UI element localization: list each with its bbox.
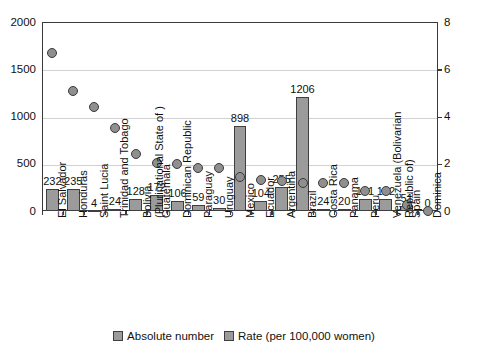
x-tickmark: [146, 211, 147, 215]
x-tickmark: [84, 211, 85, 215]
tickmark-right-4: [438, 117, 442, 118]
rate-dot: [298, 178, 308, 188]
bar-value-label: 1206: [281, 84, 325, 95]
legend-label-absolute-number: Absolute number: [127, 330, 214, 342]
legend-item-rate: Rate (per 100,000 women): [224, 330, 375, 342]
y-tick-left-1000: 1000: [0, 111, 36, 123]
x-axis-label: Dominica: [432, 172, 444, 218]
rate-dot: [381, 186, 391, 196]
y-tick-right-8: 8: [444, 17, 474, 29]
x-axis-label: Dominican Republic: [182, 120, 194, 218]
y-tick-left-500: 500: [0, 158, 36, 170]
x-axis-label: Guatemala: [161, 164, 173, 218]
x-tickmark: [271, 211, 272, 215]
x-axis-label: Costa Rica: [328, 164, 340, 218]
x-tickmark: [209, 211, 210, 215]
legend-item-absolute-number: Absolute number: [113, 330, 214, 342]
x-tickmark: [355, 211, 356, 215]
gridline-1500: [43, 70, 437, 71]
y-tick-left-0: 0: [0, 206, 36, 218]
x-tickmark: [313, 211, 314, 215]
x-tickmark: [125, 211, 126, 215]
tickmark-right-2: [438, 164, 442, 165]
x-tickmark: [63, 211, 64, 215]
legend-swatch-icon: [113, 331, 123, 341]
x-tickmark: [334, 211, 335, 215]
x-tickmark: [167, 211, 168, 215]
y-tick-right-4: 4: [444, 111, 474, 123]
x-tickmark: [188, 211, 189, 215]
y-tick-right-2: 2: [444, 158, 474, 170]
legend-swatch-icon: [224, 331, 234, 341]
x-axis-label: Trinidad and Tobago: [119, 118, 131, 218]
x-axis-label: El Salvador: [57, 162, 69, 218]
bar-value-label: 898: [218, 113, 262, 124]
x-axis-label: Saint Lucia: [99, 164, 111, 218]
y-tick-left-1500: 1500: [0, 64, 36, 76]
x-tickmark: [42, 211, 43, 215]
y-tick-left-2000: 2000: [0, 17, 36, 29]
x-tickmark: [375, 211, 376, 215]
femicide-chart: 2000 1500 1000 500 0 8 6 4 2 0 232235424…: [0, 0, 488, 354]
x-tickmark: [230, 211, 231, 215]
y-tick-right-6: 6: [444, 64, 474, 76]
x-tickmark: [396, 211, 397, 215]
x-tickmark: [250, 211, 251, 215]
rate-dot: [68, 86, 78, 96]
x-tickmark: [417, 211, 418, 215]
x-tickmark: [105, 211, 106, 215]
rate-dot: [235, 172, 245, 182]
legend-label-rate: Rate (per 100,000 women): [238, 330, 375, 342]
chart-legend: Absolute number Rate (per 100,000 women): [0, 330, 488, 342]
x-tickmark: [292, 211, 293, 215]
tickmark-right-6: [438, 69, 442, 70]
